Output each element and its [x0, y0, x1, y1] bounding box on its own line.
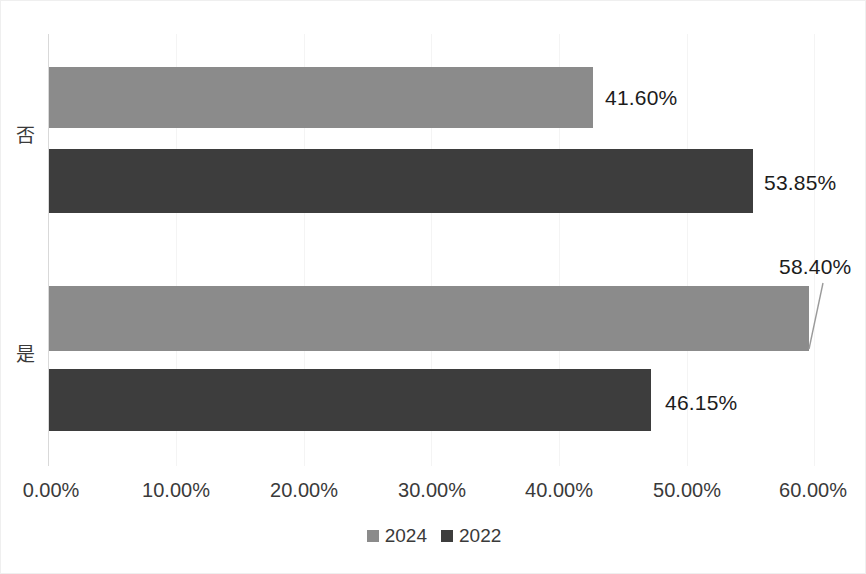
legend-swatch-2024-icon — [367, 530, 379, 542]
x-tick-50: 50.00% — [653, 479, 721, 502]
data-label-yes-2024: 58.40% — [779, 255, 851, 279]
legend-label-2024: 2024 — [385, 525, 427, 547]
x-axis-tick-labels: 0.00% 10.00% 20.00% 30.00% 40.00% 50.00%… — [1, 479, 866, 505]
chart-legend: 2024 2022 — [1, 525, 866, 547]
x-tick-10: 10.00% — [142, 479, 210, 502]
x-tick-40: 40.00% — [525, 479, 593, 502]
bar-yes-2024 — [49, 286, 809, 351]
x-tick-60: 60.00% — [779, 479, 847, 502]
x-tick-0: 0.00% — [23, 479, 80, 502]
leader-line-yes-2024 — [801, 281, 827, 351]
category-label-no: 否 — [5, 120, 45, 147]
bar-no-2022 — [49, 149, 753, 213]
legend-item-2022[interactable]: 2022 — [441, 525, 501, 547]
legend-swatch-2022-icon — [441, 530, 453, 542]
bar-chart: 41.60% 53.85% 否 58.40% 46.15% 是 0.00% 10… — [0, 0, 866, 574]
legend-label-2022: 2022 — [459, 525, 501, 547]
bar-no-2024 — [49, 67, 593, 128]
category-label-yes: 是 — [5, 339, 45, 366]
legend-item-2024[interactable]: 2024 — [367, 525, 427, 547]
data-label-yes-2022: 46.15% — [665, 391, 737, 415]
data-label-no-2024: 41.60% — [605, 86, 677, 110]
gridline-60 — [814, 34, 815, 466]
x-tick-20: 20.00% — [270, 479, 338, 502]
bar-yes-2022 — [49, 369, 651, 431]
data-label-no-2022: 53.85% — [764, 171, 836, 195]
x-tick-30: 30.00% — [398, 479, 466, 502]
